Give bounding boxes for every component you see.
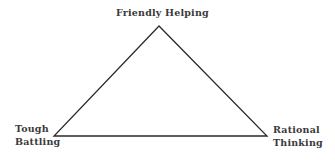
vertex-label-tough-battling: Tough Battling xyxy=(15,122,60,148)
label-line: Rational xyxy=(273,123,323,136)
vertex-label-friendly-helping: Friendly Helping xyxy=(116,6,209,19)
label-line: Battling xyxy=(15,135,60,148)
label-line: Tough xyxy=(15,122,60,135)
label-line: Thinking xyxy=(273,136,323,149)
label-line: Friendly Helping xyxy=(116,7,209,18)
triangle-shape xyxy=(54,26,267,136)
vertex-label-rational-thinking: Rational Thinking xyxy=(273,123,323,149)
